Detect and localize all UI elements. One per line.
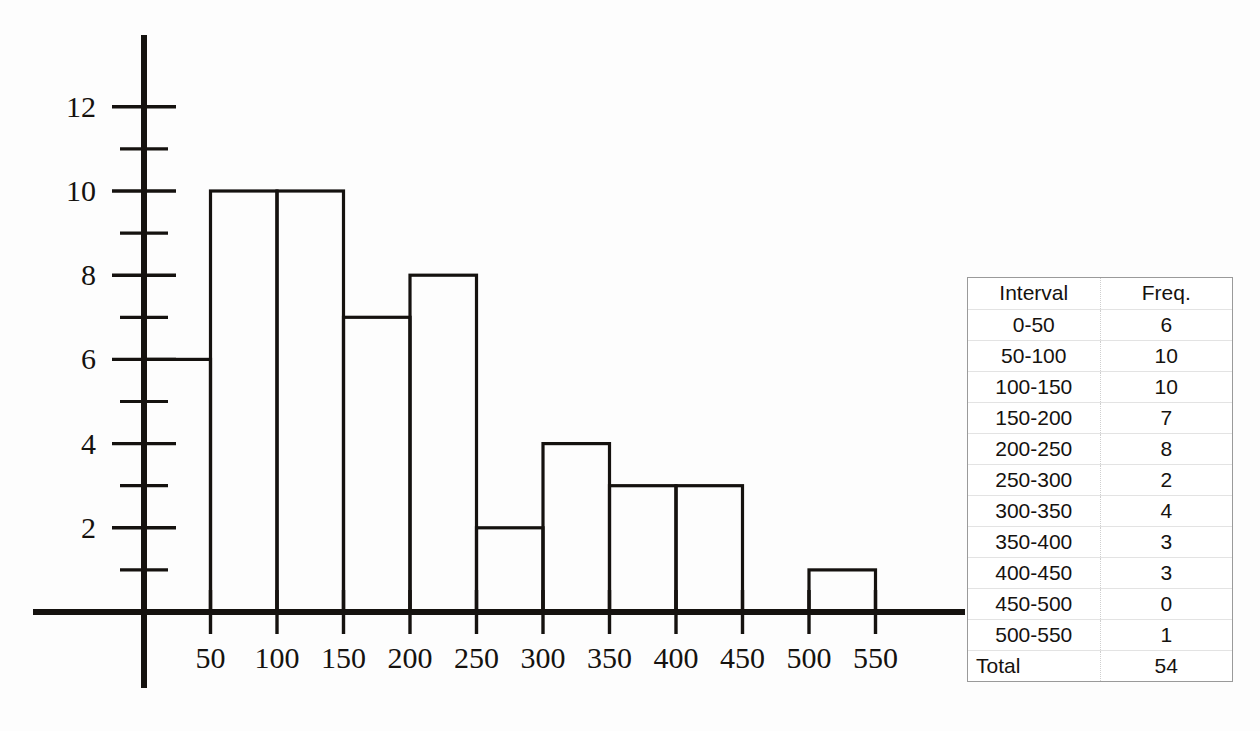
cell-interval: 0-50 — [968, 309, 1100, 340]
cell-interval: 200-250 — [968, 433, 1100, 464]
y-tick-label: 2 — [81, 511, 96, 544]
frequency-table-container: Interval Freq. 0-50650-10010100-15010150… — [967, 277, 1233, 682]
table-row: 150-2007 — [968, 402, 1232, 433]
x-tick-label: 100 — [255, 641, 300, 674]
table-total-row: Total54 — [968, 650, 1232, 681]
cell-interval: 150-200 — [968, 402, 1100, 433]
cell-frequency: 8 — [1100, 433, 1232, 464]
histogram-svg: 50100150200250300350400450500550 2468101… — [0, 0, 975, 731]
y-tick-label: 4 — [81, 427, 96, 460]
cell-frequency: 6 — [1100, 309, 1232, 340]
bars-group — [144, 191, 876, 612]
x-tick-label: 550 — [853, 641, 898, 674]
cell-interval: 350-400 — [968, 526, 1100, 557]
x-tick-label: 300 — [521, 641, 566, 674]
y-tick-label: 12 — [66, 90, 96, 123]
cell-interval: 250-300 — [968, 464, 1100, 495]
table-header-row: Interval Freq. — [968, 278, 1232, 309]
cell-frequency: 10 — [1100, 340, 1232, 371]
histogram-page: 50100150200250300350400450500550 2468101… — [0, 0, 1260, 731]
y-tick-label: 8 — [81, 258, 96, 291]
cell-frequency: 10 — [1100, 371, 1232, 402]
table-row: 500-5501 — [968, 619, 1232, 650]
histogram-bar — [277, 191, 344, 612]
x-tick-label: 200 — [388, 641, 433, 674]
header-freq: Freq. — [1100, 278, 1232, 309]
table-row: 200-2508 — [968, 433, 1232, 464]
table-row: 300-3504 — [968, 495, 1232, 526]
histogram-bar — [477, 528, 544, 612]
cell-frequency: 3 — [1100, 557, 1232, 588]
y-tick-label: 10 — [66, 174, 96, 207]
header-interval: Interval — [968, 278, 1100, 309]
total-value: 54 — [1100, 650, 1232, 681]
y-tick-label: 6 — [81, 342, 96, 375]
histogram-bar — [676, 486, 743, 612]
cell-interval: 400-450 — [968, 557, 1100, 588]
x-tick-label: 250 — [454, 641, 499, 674]
cell-interval: 100-150 — [968, 371, 1100, 402]
histogram-bar — [344, 317, 411, 612]
cell-frequency: 1 — [1100, 619, 1232, 650]
x-tick-label: 400 — [654, 641, 699, 674]
cell-frequency: 7 — [1100, 402, 1232, 433]
cell-interval: 450-500 — [968, 588, 1100, 619]
frequency-table: Interval Freq. 0-50650-10010100-15010150… — [968, 278, 1232, 681]
x-axis-labels: 50100150200250300350400450500550 — [196, 641, 899, 674]
x-tick-label: 500 — [787, 641, 832, 674]
cell-interval: 500-550 — [968, 619, 1100, 650]
histogram-bar — [543, 444, 610, 612]
cell-frequency: 0 — [1100, 588, 1232, 619]
y-axis-labels: 24681012 — [66, 90, 96, 544]
histogram-chart: 50100150200250300350400450500550 2468101… — [0, 0, 975, 731]
histogram-bar — [809, 570, 876, 612]
table-row: 450-5000 — [968, 588, 1232, 619]
cell-frequency: 2 — [1100, 464, 1232, 495]
table-row: 0-506 — [968, 309, 1232, 340]
cell-interval: 300-350 — [968, 495, 1100, 526]
histogram-bar — [211, 191, 278, 612]
table-row: 250-3002 — [968, 464, 1232, 495]
table-row: 400-4503 — [968, 557, 1232, 588]
table-row: 100-15010 — [968, 371, 1232, 402]
cell-frequency: 3 — [1100, 526, 1232, 557]
table-row: 350-4003 — [968, 526, 1232, 557]
histogram-bar — [610, 486, 677, 612]
x-tick-label: 50 — [196, 641, 226, 674]
table-row: 50-10010 — [968, 340, 1232, 371]
x-tick-label: 450 — [720, 641, 765, 674]
cell-interval: 50-100 — [968, 340, 1100, 371]
cell-frequency: 4 — [1100, 495, 1232, 526]
x-tick-label: 150 — [321, 641, 366, 674]
total-label: Total — [968, 650, 1100, 681]
histogram-bar — [410, 275, 477, 612]
x-tick-label: 350 — [587, 641, 632, 674]
